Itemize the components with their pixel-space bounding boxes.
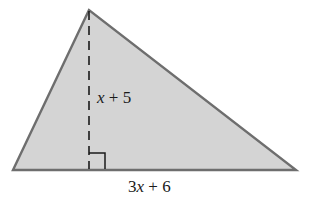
height-label: x + 5 (96, 88, 131, 107)
triangle-diagram: x + 5 3x + 6 (0, 0, 310, 208)
triangle (13, 10, 296, 170)
base-label: 3x + 6 (128, 177, 171, 196)
